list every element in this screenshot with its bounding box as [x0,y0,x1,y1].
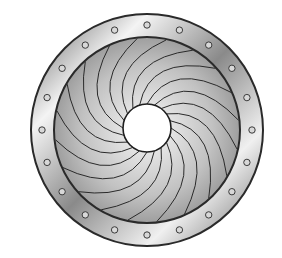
bolt-icon [111,27,117,33]
bolt-icon [206,42,212,48]
bolt-icon [144,22,150,28]
bolt-icon [206,212,212,218]
bolt-icon [39,127,45,133]
bolt-icon [82,42,88,48]
bolt-icon [244,94,250,100]
iris-diaphragm-illustration [0,0,282,258]
bolt-icon [44,94,50,100]
bolt-icon [176,227,182,233]
bolt-icon [144,232,150,238]
bolt-icon [229,189,235,195]
bolt-icon [229,65,235,71]
bolt-icon [176,27,182,33]
bolt-icon [111,227,117,233]
bolt-icon [244,159,250,165]
aperture-opening [123,104,171,152]
bolt-icon [249,127,255,133]
bolt-icon [59,189,65,195]
bolt-icon [59,65,65,71]
bolt-icon [44,159,50,165]
iris-diaphragm-figure [0,0,282,258]
bolt-icon [82,212,88,218]
